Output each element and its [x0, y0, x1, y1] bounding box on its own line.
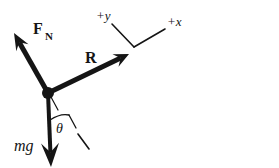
theta-label: θ — [56, 121, 63, 136]
positive-x-axis-label: +x — [167, 14, 182, 29]
normal-force-label: F — [33, 20, 43, 37]
free-body-diagram: +y +x θ F N R — [0, 0, 279, 168]
positive-y-axis-label: +y — [96, 8, 111, 23]
weight-force-label: mg — [14, 137, 34, 155]
weight-force-shaft — [48, 93, 50, 152]
diagram-canvas: +y +x θ F N R — [0, 0, 279, 168]
particle-origin-dot — [42, 87, 54, 99]
resultant-force-label: R — [85, 49, 97, 66]
normal-force-subscript: N — [45, 30, 53, 42]
